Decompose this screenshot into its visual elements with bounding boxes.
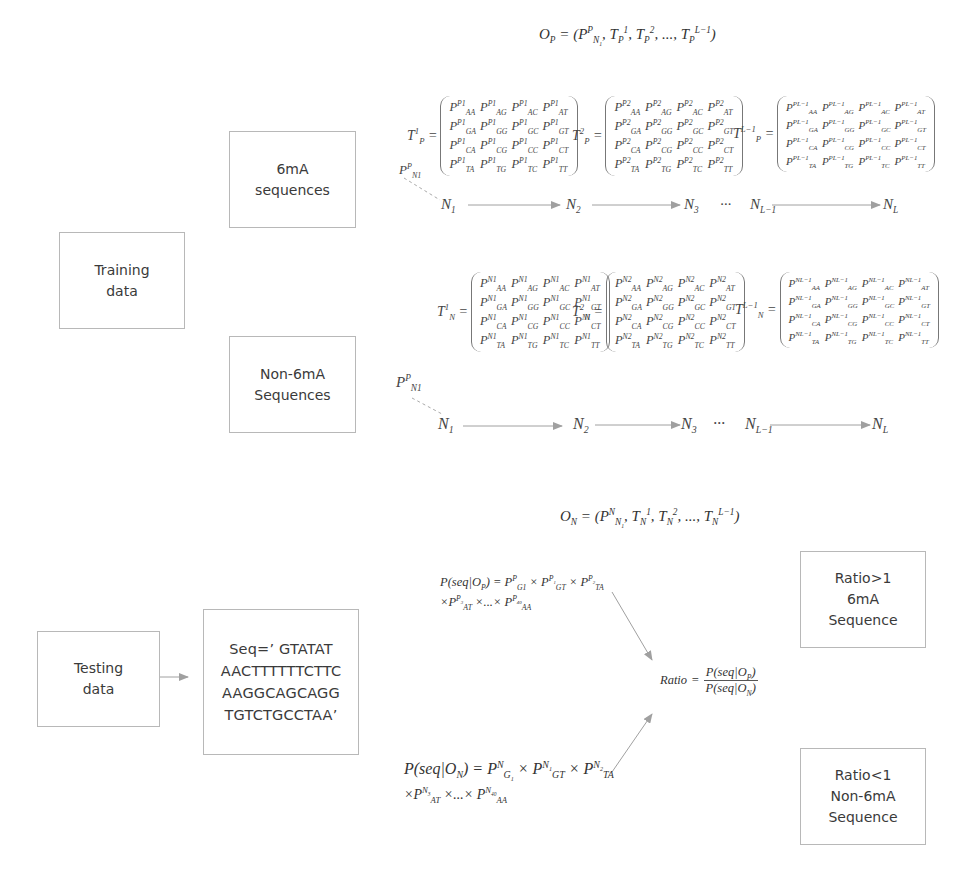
matrix-cell: PP1CG [478,136,509,155]
chain-node-negative-3: N3 [681,415,697,433]
matrix-bracket: PNL−1AAPNL−1AGPNL−1ACPNL−1ATPNL−1GAPNL−1… [780,272,939,348]
training-data-box: Training data [59,232,185,329]
test-sequence-box: Seq=’ GTATAT AACTTTTTTCTTC AAGGCAGCAGG T… [203,609,359,755]
matrix-bracket: PP2AAPP2AGPP2ACPP2ATPP2GAPP2GGPP2GCPP2GT… [605,96,742,176]
transition-matrix-positive-2: T2P =PP2AAPP2AGPP2ACPP2ATPP2GAPP2GGPP2GC… [572,96,743,176]
negative-prob-to-ratio-arrow [612,714,652,772]
matrix-cell: PPL−1GG [820,116,857,134]
matrix-cell: PNL−1AG [823,274,860,292]
matrix-cell: PP2CA [612,136,643,155]
matrix-cell: PP2TG [643,155,674,174]
matrix-cell: PN2AC [676,274,707,293]
result-positive-line-1: Ratio>1 [835,568,892,589]
matrix-cell: PNL−1GG [823,292,860,310]
matrix-label: T2N = [572,304,603,320]
matrix-label: TL−1P = [733,126,774,142]
chain-node-negative-2: N2 [573,415,589,433]
matrix-cell: PPL−1AA [784,98,820,116]
negative-box-line-2: Sequences [254,385,330,406]
chain-node-positive-1: N1 [441,196,456,213]
sequence-line-1: Seq=’ GTATAT [229,638,333,660]
matrix-cell: PP2AG [643,98,674,117]
matrix-cell: PP1AG [478,98,509,117]
matrix-cell: PNL−1AC [860,274,897,292]
matrix-cell: PP2GC [674,117,705,136]
matrix-row: PPL−1CAPPL−1CGPPL−1CCPPL−1CT [784,134,928,152]
matrix-row: PP1CAPP1CGPP1CCPP1CT [447,136,570,155]
matrix-row: PP2CAPP2CGPP2CCPP2CT [612,136,735,155]
matrix-row: PP1AAPP1AGPP1ACPP1AT [447,98,570,117]
matrix-cell: PPL−1TT [893,152,928,170]
positive-box-line-2: sequences [255,180,330,201]
matrix-cell: PP1AT [540,98,570,117]
matrix-cell: PPL−1CC [856,134,892,152]
matrix-cell: PPL−1AT [893,98,928,116]
matrix-row: PP1TAPP1TGPP1TCPP1TT [447,155,570,174]
result-negative-line-2: Non-6mA [830,786,895,807]
initial-dashed-link-negative [412,398,442,414]
matrix-cell: PP1AC [509,98,540,117]
matrix-cell: PP2CG [643,136,674,155]
matrix-cell: PP2GT [705,117,735,136]
ratio-label: Ratio [660,673,687,688]
matrix-cell: PN2GA [613,293,644,312]
ratio-numerator: P(seq|OP) [704,665,758,681]
positive-probability-formula: P(seq|OP) = PPG1 × PP1GT × PP2TA ×PP3AT … [440,572,604,612]
matrix-cell: PN1GG [509,293,541,312]
matrix-cell: PP2CT [705,136,735,155]
negative-sequences-box: Non-6mA Sequences [229,336,356,433]
transition-matrix-negative-last: TL−1N =PNL−1AAPNL−1AGPNL−1ACPNL−1ATPNL−1… [735,272,939,348]
matrix-cell: PP2TA [612,155,643,174]
matrix-row: PP2GAPP2GGPP2GCPP2GT [612,117,735,136]
matrix-cell: PNL−1TC [860,328,897,346]
transition-matrix-positive-last: TL−1P =PPL−1AAPPL−1AGPPL−1ACPPL−1ATPPL−1… [733,96,935,172]
ratio-formula: Ratio = P(seq|OP) P(seq|ON) [660,665,758,696]
matrix-cell: PN2AA [613,274,644,293]
matrix-cell: PNL−1AT [896,274,932,292]
matrix-row: PN2AAPN2AGPN2ACPN2AT [613,274,738,293]
matrix-cell: PN1CC [541,312,572,331]
negative-box-line-1: Non-6mA [260,364,325,385]
result-negative-line-1: Ratio<1 [835,765,892,786]
matrix-row: PP1GAPP1GGPP1GCPP1GT [447,117,570,136]
matrix-cell: PP2CC [674,136,705,155]
matrix-cell: PN1CG [509,312,541,331]
matrix-cell: PPL−1CG [820,134,857,152]
matrix-cell: PN2CT [707,312,738,331]
testing-box-line-2: data [83,679,115,700]
matrix-cell: PNL−1GC [860,292,897,310]
matrix-cell: PN2GG [644,293,676,312]
matrix-cell: PPL−1CT [893,134,928,152]
chain-node-negative-l-minus-1: NL−1 [745,415,773,433]
result-positive-line-3: Sequence [828,610,897,631]
matrix-cell: PP2AT [705,98,735,117]
matrix-cell: PP1CT [540,136,570,155]
matrix-label: T1P = [407,128,437,144]
chain-node-positive-l: NL [883,196,898,213]
matrix-cell: PP1AA [447,98,478,117]
chain-node-negative-l: NL [872,415,888,433]
training-box-line-2: data [106,281,138,302]
matrix-row: PN2CAPN2CGPN2CCPN2CT [613,312,738,331]
matrix-cell: PPL−1AG [820,98,857,116]
matrix-cell: PNL−1CA [787,310,823,328]
matrix-cell: PP1GC [509,117,540,136]
matrix-row: PNL−1TAPNL−1TGPNL−1TCPNL−1TT [787,328,932,346]
transition-matrix-positive-1: T1P =PP1AAPP1AGPP1ACPP1ATPP1GAPP1GGPP1GC… [407,96,578,176]
matrix-cell: PN1TG [509,331,541,350]
matrix-label: TL−1N = [735,302,777,318]
matrix-cell: PN1CA [478,312,509,331]
chain-node-positive-l-minus-1: NL−1 [750,196,776,213]
matrix-cell: PN2TA [613,331,644,350]
matrix-row: PNL−1CAPNL−1CGPNL−1CCPNL−1CT [787,310,932,328]
sequence-line-2: AACTTTTTTCTTC [221,660,342,682]
matrix-cell: PPL−1TA [784,152,820,170]
positive-model-formula: OP = (PPN1, TP1, TP2, ..., TPL−1) [539,26,716,44]
positive-box-line-1: 6mA [276,159,308,180]
initial-prob-label-negative: PPN1 [396,374,422,391]
matrix-cell: PN1TC [541,331,572,350]
matrix-cell: PP1CC [509,136,540,155]
result-negative-box: Ratio<1 Non-6mA Sequence [800,748,926,845]
matrix-label: T1N = [437,304,468,320]
matrix-cell: PN2AG [644,274,676,293]
